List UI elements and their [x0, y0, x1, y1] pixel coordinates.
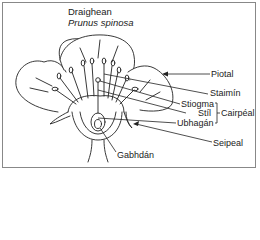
label-carpel: Cairpéal — [221, 108, 255, 118]
label-style: Stíl — [198, 108, 211, 118]
label-sepal: Seipeal — [213, 138, 243, 148]
label-stamen: Staimín — [210, 88, 241, 98]
label-receptacle: Gabhdán — [117, 150, 154, 160]
label-petal: Piotal — [211, 69, 234, 79]
label-ovary: Ubhagán — [177, 118, 214, 128]
